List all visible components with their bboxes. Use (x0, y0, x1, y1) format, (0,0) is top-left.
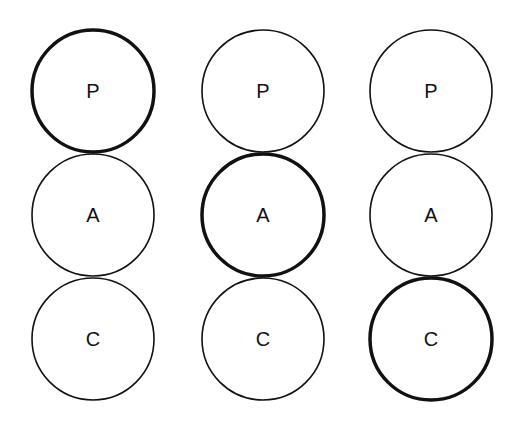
label-p: P (256, 80, 269, 102)
label-a: A (256, 204, 270, 226)
label-c: C (424, 328, 438, 350)
column-1: P A C (32, 30, 154, 400)
label-a: A (424, 204, 438, 226)
label-c: C (86, 328, 100, 350)
label-c: C (256, 328, 270, 350)
column-2: P A C (202, 30, 324, 400)
column-3: P A C (370, 30, 492, 400)
label-a: A (86, 204, 100, 226)
label-p: P (424, 80, 437, 102)
pac-diagram: P A C P A C P A C (0, 0, 521, 423)
label-p: P (86, 80, 99, 102)
